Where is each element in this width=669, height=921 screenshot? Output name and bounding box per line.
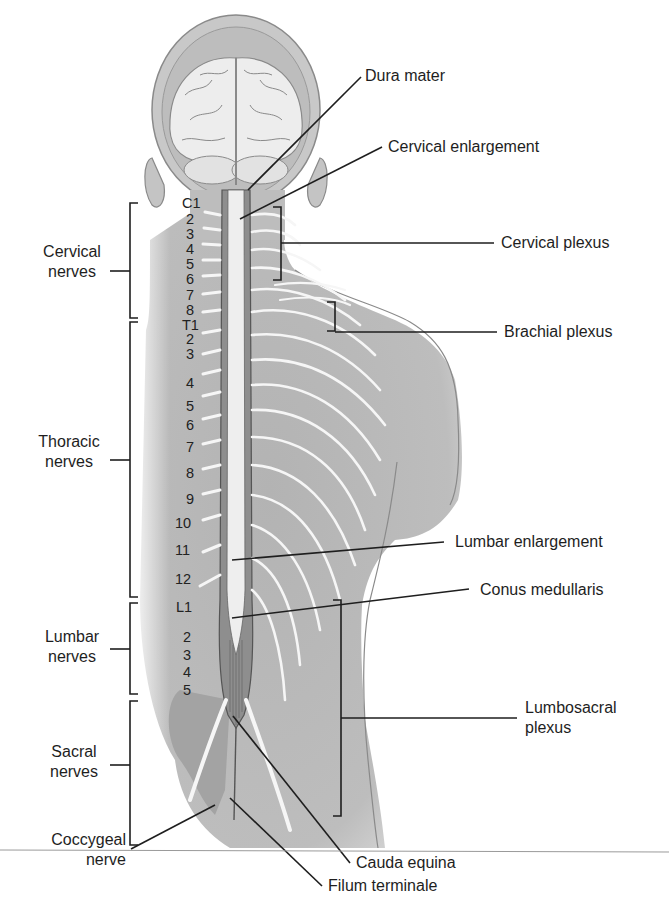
label-cauda-equina: Cauda equina	[356, 853, 456, 873]
label-cervical-plexus: Cervical plexus	[501, 233, 609, 253]
segment-label: 6	[186, 418, 194, 432]
label-line: nerves	[32, 647, 112, 667]
label-line: nerves	[26, 452, 112, 472]
segment-label: 4	[186, 376, 194, 390]
label-lumbar-nerves: Lumbar nerves	[32, 627, 112, 667]
segment-label: T1	[182, 318, 199, 332]
segment-label: 2	[183, 630, 191, 644]
label-line: Thoracic	[26, 432, 112, 452]
label-sacral-nerves: Sacral nerves	[36, 742, 112, 782]
segment-label: 8	[186, 303, 194, 317]
label-line: Sacral	[36, 742, 112, 762]
segment-label: 5	[183, 683, 191, 697]
label-brachial-plexus: Brachial plexus	[504, 322, 613, 342]
label-filum-terminale: Filum terminale	[328, 876, 437, 896]
label-cervical-nerves: Cervical nerves	[32, 242, 112, 282]
segment-label: 4	[183, 665, 191, 679]
segment-label: 11	[175, 543, 190, 557]
spinal-cord-diagram: Cervical nerves Thoracic nerves Lumbar n…	[0, 0, 669, 921]
label-line: plexus	[525, 718, 617, 738]
segment-label: 9	[186, 492, 194, 506]
segment-label: 12	[175, 572, 191, 586]
label-line: nerves	[32, 262, 112, 282]
label-conus-medullaris: Conus medullaris	[480, 580, 604, 600]
label-lumbosacral-plexus: Lumbosacral plexus	[525, 698, 617, 738]
label-line: nerves	[36, 762, 112, 782]
label-thoracic-nerves: Thoracic nerves	[26, 432, 112, 472]
label-line: Cervical	[32, 242, 112, 262]
label-line: Lumbar	[32, 627, 112, 647]
label-cervical-enlargement: Cervical enlargement	[388, 137, 539, 157]
segment-label: 2	[186, 212, 194, 226]
segment-label: 3	[186, 347, 194, 361]
segment-label: 3	[186, 227, 194, 241]
label-lumbar-enlargement: Lumbar enlargement	[455, 532, 603, 552]
segment-label: 6	[186, 272, 194, 286]
segment-label: C1	[182, 196, 201, 210]
label-line: Coccygeal	[26, 830, 126, 850]
segment-label: 8	[186, 466, 194, 480]
segment-label: 3	[183, 648, 191, 662]
segment-label: 7	[186, 288, 194, 302]
segment-label: 5	[186, 257, 194, 271]
segment-label: 2	[186, 332, 194, 346]
segment-label: 4	[186, 242, 194, 256]
label-line: Lumbosacral	[525, 698, 617, 718]
segment-label: L1	[176, 600, 192, 614]
label-coccygeal-nerve: Coccygeal nerve	[26, 830, 126, 870]
segment-label: 5	[186, 399, 194, 413]
segment-label: 7	[186, 440, 194, 454]
label-dura-mater: Dura mater	[365, 66, 445, 86]
label-line: nerve	[26, 850, 126, 870]
segment-label: 10	[175, 516, 191, 530]
